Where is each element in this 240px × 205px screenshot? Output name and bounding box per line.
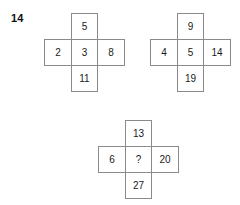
question-number: 14 [11, 12, 24, 24]
cross-2-cell-right: 14 [203, 39, 231, 66]
cross-2-cell-center: 5 [177, 39, 204, 66]
cross-figure-3: 13 6 ? 20 27 [98, 120, 178, 198]
cross-3-cell-left: 6 [98, 146, 126, 173]
cross-2-cell-bottom: 19 [177, 65, 204, 92]
cross-figure-1: 5 2 3 8 11 [44, 13, 124, 91]
cross-2-cell-left: 4 [150, 39, 178, 66]
cross-1-cell-right: 8 [97, 39, 125, 66]
cross-1-cell-center: 3 [71, 39, 98, 66]
cross-1-cell-bottom: 11 [71, 65, 98, 92]
cross-3-cell-top: 13 [125, 120, 152, 147]
cross-figure-2: 9 4 5 14 19 [150, 13, 230, 91]
cross-3-cell-right: 20 [151, 146, 179, 173]
puzzle-canvas: 14 5 2 3 8 11 9 4 5 14 19 13 6 ? 20 27 [0, 0, 240, 205]
cross-1-cell-top: 5 [71, 13, 98, 40]
cross-3-cell-center-unknown: ? [125, 146, 152, 173]
cross-1-cell-left: 2 [44, 39, 72, 66]
cross-2-cell-top: 9 [177, 13, 204, 40]
cross-3-cell-bottom: 27 [125, 172, 152, 199]
